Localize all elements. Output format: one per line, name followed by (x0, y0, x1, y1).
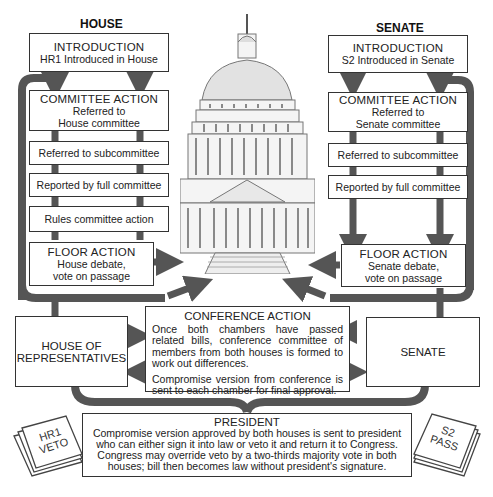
senate-floor-title: FLOOR ACTION (359, 248, 447, 260)
senate-chamber-box: SENATE (366, 317, 480, 387)
conference-action-box: CONFERENCE ACTION Once both chambers hav… (145, 306, 350, 392)
house-committee-title: COMMITTEE ACTION (40, 93, 158, 105)
senate-full-committee-box: Reported by full committee (328, 175, 468, 199)
house-floor-line2: vote on passage (53, 270, 130, 282)
house-rules-committee-box: Rules committee action (29, 206, 169, 232)
senate-committee-title: COMMITTEE ACTION (339, 94, 457, 106)
conference-title: CONFERENCE ACTION (152, 311, 343, 323)
house-full-committee-text: Reported by full committee (37, 179, 162, 191)
house-floor-line1: House debate, (57, 258, 125, 270)
senate-floor-line1: Senate debate, (368, 260, 439, 272)
president-text: Compromise version approved by both hous… (89, 428, 405, 472)
house-chamber-line1: HOUSE OF (41, 340, 101, 352)
house-floor-title: FLOOR ACTION (47, 246, 135, 258)
senate-committee-line1: Referred to (372, 106, 425, 118)
senate-subcommittee-text: Referred to subcommittee (338, 149, 459, 161)
house-floor-action-box: FLOOR ACTION House debate, vote on passa… (29, 242, 154, 286)
house-full-committee-box: Reported by full committee (29, 173, 169, 197)
senate-full-committee-text: Reported by full committee (336, 181, 461, 193)
senate-committee-line2: Senate committee (356, 118, 441, 130)
senate-floor-line2: vote on passage (365, 272, 442, 284)
president-box: PRESIDENT Compromise version approved by… (82, 413, 412, 477)
house-introduction-box: INTRODUCTION HR1 Introduced in House (29, 33, 169, 72)
house-rules-committee-text: Rules committee action (44, 213, 153, 225)
house-of-representatives-box: HOUSE OF REPRESENTATIVES (15, 316, 128, 387)
senate-header: SENATE (376, 21, 424, 35)
senate-introduction-text: S2 Introduced in Senate (342, 54, 455, 66)
senate-introduction-box: INTRODUCTION S2 Introduced in Senate (328, 35, 468, 73)
senate-floor-action-box: FLOOR ACTION Senate debate, vote on pass… (341, 244, 466, 287)
capitol-building-illustration (180, 12, 315, 274)
house-subcommittee-text: Referred to subcommittee (39, 147, 160, 159)
house-introduction-text: HR1 Introduced in House (40, 53, 158, 65)
house-committee-line1: Referred to (73, 105, 126, 117)
senate-chamber-text: SENATE (400, 346, 445, 358)
conference-paragraph-1: Once both chambers have passed related b… (152, 324, 343, 370)
house-chamber-line2: REPRESENTATIVES (17, 352, 127, 364)
house-subcommittee-box: Referred to subcommittee (29, 141, 169, 165)
senate-subcommittee-box: Referred to subcommittee (328, 143, 468, 167)
conference-paragraph-2: Compromise version from conference is se… (152, 374, 343, 397)
house-committee-box: COMMITTEE ACTION Referred to House commi… (29, 90, 169, 131)
house-committee-line2: House committee (58, 117, 140, 129)
senate-introduction-title: INTRODUCTION (353, 42, 444, 54)
senate-committee-box: COMMITTEE ACTION Referred to Senate comm… (328, 92, 468, 132)
house-header: HOUSE (80, 17, 123, 31)
house-introduction-title: INTRODUCTION (54, 41, 145, 53)
